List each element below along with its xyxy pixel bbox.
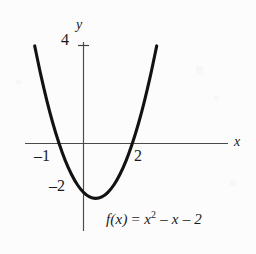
y-axis-label: y [76,18,82,32]
equation-equals-sign: = [128,211,145,227]
y-tick-label-4: 4 [61,32,69,48]
x-axis-label: x [234,135,240,149]
y-tick-label-negative-two: –2 [49,178,65,194]
x-tick-label-negative-one: –1 [34,148,50,164]
x-tick-label-two: 2 [134,148,142,164]
equation-lhs: f(x) [106,211,128,227]
equation-term2-text: – x [160,211,179,227]
parabola-curve [35,46,157,199]
parabola-figure: y x 4 –1 2 –2 f(x) = x2 – x – 2 [0,0,256,254]
equation-term3-text: – 2 [183,211,202,227]
function-equation-label: f(x) = x2 – x – 2 [106,212,202,227]
